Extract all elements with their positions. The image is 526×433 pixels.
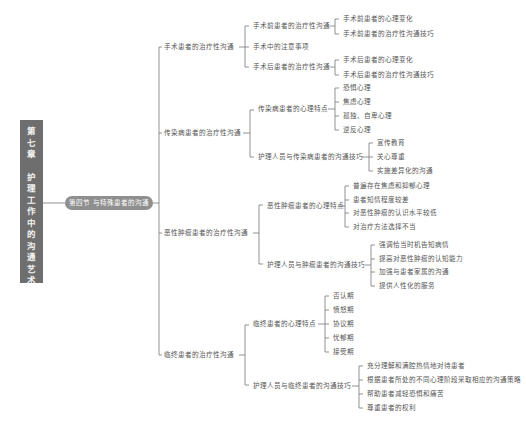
- leaf-item: 患者知情程度较差: [353, 196, 409, 205]
- leaf-item: 恐惧心理: [343, 84, 371, 93]
- node-dying: 临终患者的治疗性沟通: [164, 351, 234, 360]
- leaf-item: 提高对恶性肿瘤的认知能力: [379, 255, 463, 264]
- section-node: 第四节 与特殊患者的沟通: [65, 196, 153, 210]
- leaf-item: 逆反心理: [343, 126, 371, 135]
- node-surgery-post: 手术后患者的治疗性沟通: [253, 63, 330, 72]
- node-tumor: 恶性肿瘤患者的治疗性沟通: [164, 229, 248, 238]
- leaf-item: 对恶性肿瘤的认识水平较低: [353, 209, 437, 218]
- chapter-char: 通: [20, 252, 43, 264]
- leaf-item: 手术前患者的心理变化: [343, 15, 413, 24]
- leaf-item: 否认期: [333, 292, 354, 301]
- leaf-item: 强调恰当时机告知病情: [379, 241, 449, 250]
- node-tumor-skills: 护理人员与肿瘤患者的沟通技巧: [267, 261, 365, 270]
- chapter-title-bar: 第 七 章 护 理 工 作 中 的 沟 通 艺 术: [20, 120, 43, 283]
- chapter-char: 的: [20, 229, 43, 241]
- chapter-char: 沟: [20, 241, 43, 253]
- leaf-item: 关心尊重: [377, 153, 405, 162]
- chapter-char: 护: [20, 172, 43, 184]
- leaf-item: 手术前患者的治疗性沟通技巧: [343, 30, 434, 39]
- chapter-char: 理: [20, 183, 43, 195]
- leaf-item: 实施差异化的沟通: [377, 167, 433, 176]
- leaf-item: 提供人性化的服务: [379, 282, 435, 291]
- leaf-item: 焦虑心理: [343, 98, 371, 107]
- leaf-item: 加强与患者家属的沟通: [379, 268, 449, 277]
- leaf-item: 帮助患者减轻恐惧和痛苦: [367, 390, 444, 399]
- leaf-item: 手术后患者的心理变化: [343, 56, 413, 65]
- leaf-item: 愤怒期: [333, 306, 354, 315]
- leaf-item: 忧郁期: [333, 334, 354, 343]
- leaf-item: 孤独、自卑心理: [343, 112, 392, 121]
- node-surgery: 手术患者的治疗性沟通: [164, 43, 234, 52]
- node-dying-traits: 临终患者的心理特点: [253, 320, 316, 329]
- node-infectious-skills: 护理人员与传染病患者的沟通技巧: [258, 153, 363, 162]
- chapter-char: 章: [20, 149, 43, 161]
- chapter-char: 术: [20, 275, 43, 287]
- chapter-char: 中: [20, 218, 43, 230]
- leaf-item: 普遍存在焦虑和抑郁心理: [353, 182, 430, 191]
- leaf-item: 根据患者所处的不同心理阶段采取相应的沟通策略: [367, 376, 521, 385]
- chapter-char: 工: [20, 195, 43, 207]
- chapter-char: 艺: [20, 264, 43, 276]
- chapter-char: 七: [20, 138, 43, 150]
- leaf-item: 对治疗方法选择不当: [353, 223, 416, 232]
- node-infectious-traits: 传染病患者的心理特点: [258, 105, 328, 114]
- node-dying-skills: 护理人员与临终患者的沟通技巧: [253, 382, 351, 391]
- chapter-char: 第: [20, 126, 43, 138]
- node-surgery-pre: 手术前患者的治疗性沟通: [253, 22, 330, 31]
- leaf-item: 宣传教育: [377, 139, 405, 148]
- chapter-char: 作: [20, 206, 43, 218]
- leaf-item: 接受期: [333, 348, 354, 357]
- node-surgery-intra: 手术中的注意事项: [253, 43, 309, 52]
- mind-map: 第 七 章 护 理 工 作 中 的 沟 通 艺 术 第四节 与特殊患者的沟通 手…: [0, 0, 526, 433]
- node-infectious: 传染病患者的治疗性沟通: [164, 129, 241, 138]
- leaf-item: 充分理解和满腔热情地对待患者: [367, 362, 465, 371]
- leaf-item: 手术后患者的治疗性沟通技巧: [343, 71, 434, 80]
- node-tumor-traits: 恶性肿瘤患者的心理特点: [267, 202, 344, 211]
- leaf-item: 协议期: [333, 320, 354, 329]
- leaf-item: 尊重患者的权利: [367, 404, 416, 413]
